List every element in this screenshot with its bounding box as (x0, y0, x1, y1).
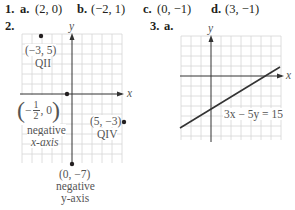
graph-3a-x-label: x (286, 69, 291, 81)
graph-3a (0, 0, 295, 210)
graph-3a-x-arrow-icon (277, 74, 284, 79)
graph-3a-equation: 3x − 5y = 15 (223, 108, 284, 120)
graph-3a-y-label: y (208, 22, 213, 34)
graph-3a-grid (181, 36, 281, 140)
